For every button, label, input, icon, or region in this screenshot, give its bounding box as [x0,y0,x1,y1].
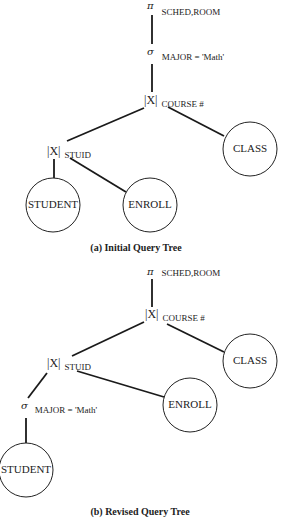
node-label: ENROLL [128,198,172,210]
node-label: CLASS [233,142,267,154]
node-label: STUDENT [1,463,51,475]
node-label: STUDENT [28,198,78,210]
sigma-icon: σ [147,46,155,57]
project-operator-a: π SCHED,ROOM [146,0,220,17]
join-stuid-operator-b: |X| STUID [47,353,91,372]
join-icon: |X| [47,144,60,158]
node-enroll-b: ENROLL [163,378,217,432]
select-subscript: MAJOR = 'Math' [162,52,225,62]
pi-icon: π [146,266,154,277]
edge-join-top-join-bottom-a [67,108,144,141]
join-stuid-operator-a: |X| STUID [47,141,91,160]
join-subscript: STUID [64,362,91,372]
node-label: ENROLL [168,398,212,410]
select-operator-a: σ MAJOR = 'Math' [147,41,225,62]
caption-a: (a) Initial Query Tree [90,242,182,254]
join-icon: |X| [145,307,158,321]
node-label: CLASS [233,354,267,366]
edge-join-top-join-bottom-b [72,322,144,356]
join-subscript: STUID [64,150,91,160]
tree-b: π SCHED,ROOM |X| COURSE # |X| STUID σ MA… [0,261,277,518]
join-course-operator-b: |X| COURSE # [145,304,205,323]
join-subscript: COURSE # [161,99,204,109]
node-student-b: STUDENT [0,443,53,497]
select-subscript: MAJOR = 'Math' [35,405,98,415]
project-subscript: SCHED,ROOM [162,268,221,278]
node-class-a: CLASS [223,122,277,176]
select-operator-b: σ MAJOR = 'Math' [21,395,98,415]
join-course-operator-a: |X| COURSE # [144,90,204,109]
sigma-icon: σ [21,400,29,411]
edge-join-bottom-enroll-b [77,371,164,397]
join-icon: |X| [144,93,157,107]
edge-join-top-class-b [167,324,224,352]
join-subscript: COURSE # [162,313,205,323]
caption-b: (b) Revised Query Tree [90,506,190,518]
node-student-a: STUDENT [26,178,80,232]
edge-join-top-class-a [168,107,224,136]
edge-join-bottom-enroll-a [70,158,126,192]
node-class-b: CLASS [223,334,277,388]
join-icon: |X| [47,356,60,370]
pi-icon: π [146,0,154,11]
tree-a: π SCHED,ROOM σ MAJOR = 'Math' |X| COURSE… [26,0,277,254]
project-subscript: SCHED,ROOM [162,7,221,17]
project-operator-b: π SCHED,ROOM [146,261,220,278]
query-tree-diagram: π SCHED,ROOM σ MAJOR = 'Math' |X| COURSE… [0,0,281,529]
node-enroll-a: ENROLL [123,178,177,232]
